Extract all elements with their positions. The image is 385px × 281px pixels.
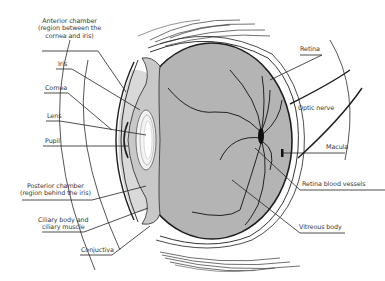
label-pupil: Pupil: [45, 138, 60, 145]
label-cornea: Cornea: [45, 85, 67, 92]
label-conjunctiva: Conjuctiva: [81, 247, 114, 254]
label-retina-blood-vessels: Retina blood vessels: [302, 181, 366, 188]
eye-anatomy-diagram: rx Anterior chamber (region between the …: [0, 0, 385, 281]
label-line: cornea and iris): [38, 33, 101, 40]
label-line: (region behind the iris): [20, 190, 91, 197]
label-retina: Retina: [300, 46, 320, 53]
upper-eyelid-lines: [138, 20, 270, 46]
label-posterior-chamber: Posterior chamber (region behind the iri…: [20, 183, 91, 198]
label-iris: Iris: [58, 61, 67, 68]
lower-eyelid-lines: [160, 252, 300, 272]
label-anterior-chamber: Anterior chamber (region between the cor…: [38, 18, 101, 40]
label-line: ciliary muscle: [38, 224, 88, 231]
label-optic-nerve: Optic nerve: [298, 105, 334, 112]
label-ciliary-body: Ciliary body and ciliary muscle: [38, 217, 88, 232]
label-lens: Lens: [47, 113, 61, 120]
label-vitreous-body: Vitreous body: [299, 224, 342, 231]
label-macula: Macula: [326, 144, 348, 151]
